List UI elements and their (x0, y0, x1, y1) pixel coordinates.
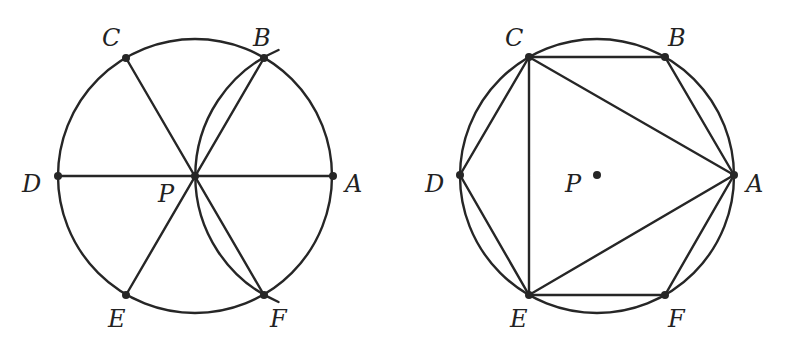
right-label-A: A (744, 170, 763, 198)
right-point-B (661, 53, 669, 61)
left-point-A (329, 172, 337, 180)
left-point-D (54, 172, 62, 180)
left-figure: A B C D E F P (21, 24, 362, 333)
right-figure: A B C D E F P (424, 24, 763, 333)
right-point-E (525, 291, 533, 299)
left-point-F (260, 291, 268, 299)
left-label-B: B (252, 24, 271, 52)
right-label-D: D (424, 170, 444, 198)
right-point-F (661, 291, 669, 299)
right-label-B: B (667, 24, 686, 52)
geometry-diagram: A B C D E F P A B C D E F P (0, 0, 793, 344)
right-label-F: F (667, 305, 686, 333)
right-label-P: P (564, 170, 582, 198)
left-label-P: P (157, 180, 175, 208)
right-point-P (593, 171, 601, 179)
right-point-C (525, 53, 533, 61)
left-point-C (122, 54, 130, 62)
right-point-D (456, 171, 464, 179)
left-label-E: E (107, 305, 126, 333)
left-label-A: A (343, 170, 362, 198)
left-point-P (191, 172, 199, 180)
right-label-E: E (509, 305, 528, 333)
left-label-F: F (269, 305, 288, 333)
left-point-E (122, 291, 130, 299)
left-label-C: C (102, 24, 120, 52)
left-point-B (260, 54, 268, 62)
right-triangle-ACE (529, 57, 734, 295)
left-label-D: D (21, 170, 41, 198)
right-label-C: C (505, 24, 523, 52)
right-point-A (730, 171, 738, 179)
